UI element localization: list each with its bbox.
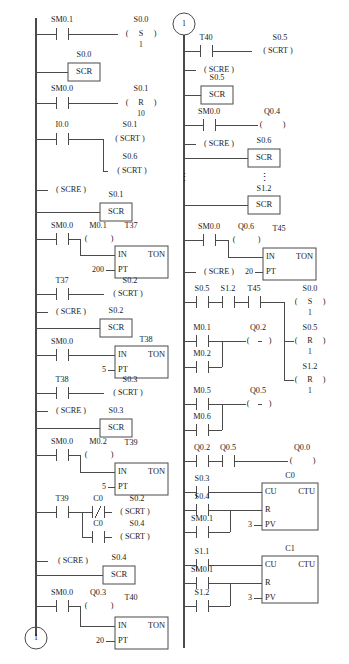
rung-L13: ( SCRE ) [36, 406, 86, 415]
contact-label: M0.6 [193, 412, 211, 421]
right-column: 1 T40 S0.5 ( SCRT ) ( SCRE ) S0.5 [173, 13, 326, 648]
scre-text: ( SCRE ) [56, 307, 86, 316]
timer-label: T38 [139, 335, 152, 344]
scr-box-label: S0.2 [109, 306, 124, 315]
scr-box-label: S0.1 [109, 190, 124, 199]
scre-text: ( SCRE ) [56, 185, 86, 194]
coil-paren-open: ( [85, 601, 88, 610]
scrt-label: S0.4 [130, 519, 145, 528]
scre-text: ( SCRE ) [58, 556, 88, 565]
coil-label: Q0.5 [250, 386, 266, 395]
timer-label: T39 [124, 438, 137, 447]
coil-paren-open: ( [126, 29, 129, 38]
contact-label: SM0.1 [51, 15, 73, 24]
coil-paren-open: ( [295, 375, 298, 384]
scre-text: ( SCRE ) [56, 406, 86, 415]
timer-pt-terminal: PT [118, 636, 128, 645]
contact-label: SM0.0 [51, 84, 73, 93]
scre-text: ( SCRE ) [204, 139, 234, 148]
timer-kind: TON [148, 250, 165, 259]
set-coil-value: 1 [139, 40, 143, 49]
rung-R11: M0.5 M0.6 Q0.5 ( ) [184, 386, 272, 436]
scrt-label: S0.2 [130, 494, 145, 503]
set-coil-label: S0.0 [303, 284, 318, 293]
counter-label: C0 [285, 471, 295, 480]
coil-paren-open: ( [126, 98, 129, 107]
scr-box-label: S0.6 [257, 136, 272, 145]
scr-box-label: S0.5 [210, 73, 225, 82]
timer-in-terminal: IN [118, 467, 127, 476]
contact-label: T40 [199, 33, 212, 42]
contact-label: C0 [93, 519, 103, 528]
scr-box-text: SCR [108, 422, 125, 432]
reset-coil-symbol: R [307, 375, 313, 384]
rung-L5: ( SCRE ) [36, 185, 86, 194]
contact-label: T37 [55, 276, 68, 285]
left-column: SM0.1 S0.0 ( S ) 1 S0.0 SCR SM0.0 S0.1 ( [25, 15, 168, 649]
rung-L7: SM0.0 M0.1 ( ) T37 IN TON PT 200 [36, 221, 168, 278]
counter-r-terminal: R [265, 505, 271, 514]
contact-label: M0.5 [193, 386, 211, 395]
contact-label: S0.5 [195, 284, 210, 293]
contact-label: T38 [55, 375, 68, 384]
coil-paren-close: ) [323, 336, 326, 345]
scr-box-text: SCR [108, 322, 125, 332]
rung-R14: S1.1 C1 CU CTU R PV 3 SM0.1 S1.2 [184, 544, 318, 612]
scrt-text: ( SCRT ) [263, 46, 293, 55]
timer-pt-value: 200 [92, 265, 104, 274]
coil-paren-close: ) [111, 601, 114, 610]
counter-kind: CTU [298, 560, 315, 569]
coil-paren-open: ( [85, 450, 88, 459]
contact-label: SM0.0 [51, 221, 73, 230]
ellipsis-left: ⋮ [179, 171, 190, 183]
rung-R8: ( SCRE ) [184, 267, 234, 276]
timer-pt-terminal: PT [266, 267, 276, 276]
scrt-text: ( SCRT ) [115, 134, 145, 143]
contact-label: Q0.5 [220, 443, 236, 452]
set-coil-value: 1 [308, 308, 312, 317]
contact-label: M0.1 [193, 323, 211, 332]
ellipsis-group: ⋮ ⋮ [179, 171, 270, 183]
scr-box-label: S0.0 [77, 50, 92, 59]
scr-box-text: SCR [256, 199, 273, 209]
contact-label: Q0.2 [194, 443, 210, 452]
rung-L9: ( SCRE ) [36, 307, 86, 316]
counter-cu-terminal: CU [265, 560, 277, 569]
coil-label: Q0.3 [90, 588, 106, 597]
rung-L8: T37 S0.2 ( SCRT ) [36, 276, 143, 300]
timer-kind: TON [148, 467, 165, 476]
scr-box-text: SCR [108, 206, 125, 216]
connector-right-top: 1 [173, 13, 195, 35]
coil-label: Q0.6 [238, 222, 254, 231]
contact-label: S1.2 [221, 284, 236, 293]
scrt-text: ( SCRT ) [117, 166, 147, 175]
scr-box-label: S1.2 [257, 184, 272, 193]
rung-L1: SM0.1 S0.0 ( S ) 1 [36, 15, 157, 49]
timer-in-terminal: IN [118, 250, 127, 259]
contact-label: SM0.0 [198, 107, 220, 116]
contact-label: C0 [93, 494, 103, 503]
coil-paren-close: ) [313, 456, 316, 465]
contact-label: S1.2 [195, 588, 210, 597]
timer-in-terminal: IN [118, 621, 127, 630]
rung-R1: T40 S0.5 ( SCRT ) [184, 33, 293, 57]
rung-L3: SM0.0 S0.1 ( R ) 10 [36, 84, 157, 118]
reset-coil-value: 1 [308, 386, 312, 395]
contact-label: S0.3 [195, 474, 210, 483]
coil-paren-close: ) [323, 297, 326, 306]
connector-number: 1 [182, 19, 186, 28]
timer-label: T37 [124, 221, 137, 230]
timer-pt-terminal: PT [118, 365, 128, 374]
coil-paren-open: ( [295, 297, 298, 306]
counter-cu-terminal: CU [265, 487, 277, 496]
scrt-text: ( SCRT ) [113, 289, 143, 298]
timer-label: T45 [272, 224, 285, 233]
rung-R13: S0.3 C0 CU CTU R PV 3 S0.4 SM0.1 [184, 471, 318, 538]
scrt-label: S0.6 [123, 152, 138, 161]
rung-L6: S0.1 SCR [36, 190, 132, 221]
rung-R12: Q0.2 Q0.5 Q0.0 ( ) [184, 443, 316, 467]
reset-coil-value: 1 [308, 347, 312, 356]
rung-R5: ( SCRE ) S0.6 SCR [184, 136, 280, 167]
coil-paren-close: ) [269, 399, 272, 408]
counter-label: C1 [285, 544, 295, 553]
